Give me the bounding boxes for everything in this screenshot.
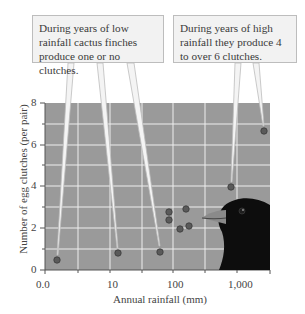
x-tick-label: 1,000 — [228, 278, 253, 290]
callout-high-rainfall: During years of high rainfall they produ… — [173, 15, 297, 63]
y-tick-label: 6 — [31, 138, 37, 150]
y-tick-label: 4 — [31, 179, 37, 191]
y-axis-title: Number of egg clutches (per pair) — [17, 104, 29, 254]
y-tick-label: 2 — [31, 221, 37, 233]
y-tick-label: 0 — [31, 263, 37, 275]
x-tick-label: 10 — [107, 278, 118, 290]
x-tick-label: 0.0 — [36, 278, 50, 290]
y-tick-label: 8 — [31, 96, 37, 108]
x-tick-label: 100 — [167, 278, 184, 290]
x-axis-title: Annual rainfall (mm) — [90, 293, 230, 305]
callout-low-rainfall: During years of low rainfall cactus finc… — [32, 15, 164, 63]
